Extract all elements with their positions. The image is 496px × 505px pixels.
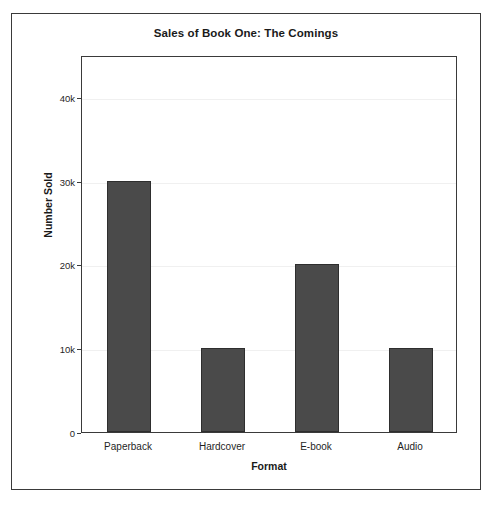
y-tick-label: 0 xyxy=(35,428,81,439)
bar-paperback xyxy=(107,181,151,432)
gridline xyxy=(82,99,456,100)
x-tick-label-audio: Audio xyxy=(397,441,423,452)
x-tick-label-paperback: Paperback xyxy=(104,441,152,452)
x-tick-label-e-book: E-book xyxy=(300,441,332,452)
bar-hardcover xyxy=(201,348,245,432)
chart-title: Sales of Book One: The Comings xyxy=(12,27,480,39)
y-tick-mark xyxy=(77,433,81,434)
chart-figure-frame: Sales of Book One: The Comings 010k20k30… xyxy=(11,13,481,490)
plot-area xyxy=(81,56,457,433)
y-tick-label: 40k xyxy=(35,92,81,103)
bar-audio xyxy=(389,348,433,432)
x-tick-label-hardcover: Hardcover xyxy=(199,441,245,452)
x-axis-label: Format xyxy=(81,460,457,472)
y-axis-label: Number Sold xyxy=(42,145,54,265)
y-tick-label: 10k xyxy=(35,344,81,355)
bar-e-book xyxy=(295,264,339,432)
